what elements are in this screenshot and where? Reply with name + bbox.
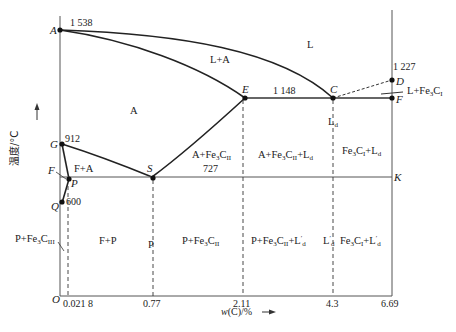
point-D [389,77,394,82]
region-P-Fe3CII-L-prime-d: P+Fe3CII+L′d [251,236,306,247]
point-Q [59,199,64,204]
region-F-plus-P: F+P [99,236,117,247]
line-CD-dashed [333,80,392,98]
temp-label-1148: 1 148 [273,86,296,96]
temp-label-727: 727 [203,164,218,174]
point-F [389,95,394,100]
region-F-plus-A: F+A [74,164,93,175]
label-point-S: S [147,163,153,174]
region-P-Fe3CIII: P+Fe3CIII [15,234,55,245]
label-point-C: C [330,84,337,95]
label-point-F-right: F [396,94,403,105]
label-point-A: A [50,25,57,36]
label-point-K: K [394,172,401,183]
region-L-prime-d: L′d [323,236,334,247]
point-S [150,175,155,180]
y-axis-arrowhead [35,103,40,110]
point-A [57,27,62,32]
temp-label-1538: 1 538 [70,18,93,28]
x-tick-0.77: 0.77 [143,299,161,309]
label-point-Q: Q [51,201,59,212]
label-origin-O: O [52,294,60,305]
x-axis-label-rest: (C)/% [228,306,252,317]
point-C [330,95,335,100]
leader-P-Fe3CIII [58,242,64,251]
label-point-E: E [242,84,249,95]
point-E [242,95,247,100]
region-L-plus-A: L+A [210,55,230,66]
label-point-G: G [50,139,58,150]
label-point-D: D [396,76,404,87]
region-A-Fe3CII: A+Fe3CII [192,150,231,161]
line-GP [62,144,69,179]
region-Ld: Ld [328,117,338,128]
leader-F [56,172,66,179]
x-axis-label: w(C)/% [221,307,252,317]
x-tick-0.0218: 0.021 8 [63,299,93,309]
region-P-Fe3CII: P+Fe3CII [182,236,219,247]
x-tick-6.69: 6.69 [381,299,399,309]
region-A: A [130,106,138,117]
region-P: P [148,240,154,251]
temp-label-912: 912 [65,134,80,144]
x-axis-label-w: w [221,306,228,317]
label-point-P: P [71,178,78,189]
temp-label-1227: 1 227 [393,62,416,72]
y-axis-label: 温度/°C [6,131,21,166]
region-Fe3CI-Ld: Fe3CI+Ld [342,146,381,157]
x-axis-arrowhead [269,310,276,315]
region-L: L [307,40,313,51]
x-tick-4.3: 4.3 [326,299,339,309]
region-Fe3CI-L-prime-d: Fe3CI+L′d [340,236,381,247]
label-point-F-left: F [48,165,55,176]
temp-label-600: 600 [66,197,81,207]
region-A-Fe3CII-Ld: A+Fe3CII+Ld [258,150,313,161]
solvus-line-ES [152,98,245,177]
point-G [59,141,64,146]
phase-diagram [0,0,456,332]
region-L-Fe3CI: L+Fe3CI [407,86,443,97]
